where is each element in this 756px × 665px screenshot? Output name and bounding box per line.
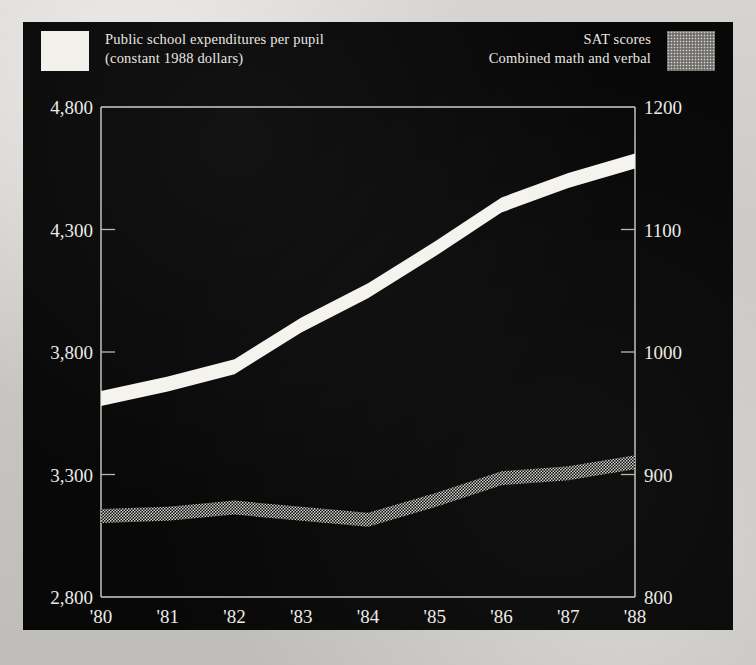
x-tick-label: '82	[223, 606, 245, 627]
right-tick-label: 800	[644, 587, 673, 608]
left-axis-ticks: 4,8004,3003,8003,3002,800	[50, 97, 115, 608]
x-axis-tick-labels: '80'81'82'83'84'85'86'87'88	[90, 606, 646, 627]
left-tick-label: 2,800	[50, 587, 93, 608]
x-tick-label: '86	[490, 606, 512, 627]
series-sat-scores	[101, 455, 635, 527]
right-axis-ticks: 120011001000900800	[621, 97, 682, 608]
left-tick-label: 3,800	[50, 342, 93, 363]
left-tick-label: 4,800	[50, 97, 93, 118]
right-tick-label: 900	[644, 465, 673, 486]
x-tick-label: '87	[557, 606, 579, 627]
left-tick-label: 3,300	[50, 465, 93, 486]
x-tick-label: '88	[624, 606, 646, 627]
x-tick-label: '83	[290, 606, 312, 627]
sat-scores-band	[101, 455, 635, 527]
x-tick-label: '81	[157, 606, 179, 627]
x-tick-label: '85	[424, 606, 446, 627]
right-tick-label: 1100	[644, 220, 681, 241]
series-expenditures	[101, 153, 635, 406]
right-tick-label: 1000	[644, 342, 682, 363]
x-tick-label: '80	[90, 606, 112, 627]
x-tick-label: '84	[357, 606, 380, 627]
chart-panel: Public school expenditures per pupil (co…	[23, 22, 733, 630]
expenditures-band	[101, 153, 635, 406]
left-tick-label: 4,300	[50, 220, 93, 241]
right-tick-label: 1200	[644, 97, 682, 118]
chart-plot: 4,8004,3003,8003,3002,800 12001100100090…	[23, 22, 733, 630]
